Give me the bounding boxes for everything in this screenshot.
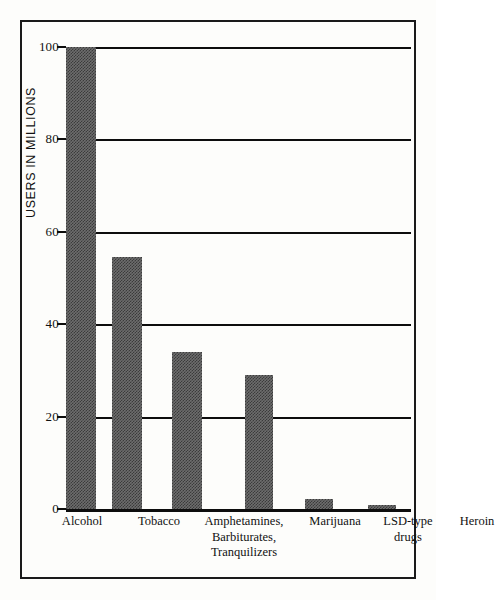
y-tick-label-40: 40 bbox=[46, 316, 59, 332]
category-label-tobacco: Tobacco bbox=[124, 514, 194, 530]
plot-area: 100806040200 bbox=[66, 47, 411, 509]
gridline-80 bbox=[66, 139, 411, 141]
y-tick-label-80: 80 bbox=[46, 131, 59, 147]
bar-amphetamines-barbiturates-tranquilizers bbox=[172, 352, 202, 509]
bar-lsd-type-drugs bbox=[305, 499, 333, 509]
category-label-marijuana: Marijuana bbox=[294, 514, 376, 530]
bar-alcohol bbox=[66, 47, 96, 509]
gridline-60 bbox=[66, 232, 411, 234]
category-label-heroin: Heroin bbox=[442, 514, 499, 530]
y-axis-title: USERS IN MILLIONS bbox=[24, 200, 38, 218]
category-label-lsd-type-drugs: LSD-type drugs bbox=[370, 514, 446, 545]
category-label-amphetamines-barbiturates-tranquilizers: Amphetamines, Barbiturates, Tranquilizer… bbox=[190, 514, 298, 561]
bar-marijuana bbox=[245, 375, 273, 509]
bar-tobacco bbox=[112, 257, 142, 509]
gridline-100 bbox=[66, 47, 411, 49]
bar-heroin bbox=[368, 505, 396, 509]
category-label-alcohol: Alcohol bbox=[44, 514, 120, 530]
y-tick-label-60: 60 bbox=[46, 224, 59, 240]
category-axis: AlcoholTobaccoAmphetamines, Barbiturates… bbox=[22, 514, 414, 576]
y-tick-label-100: 100 bbox=[39, 39, 59, 55]
gridline-0 bbox=[66, 509, 411, 512]
y-tick-label-20: 20 bbox=[46, 409, 59, 425]
